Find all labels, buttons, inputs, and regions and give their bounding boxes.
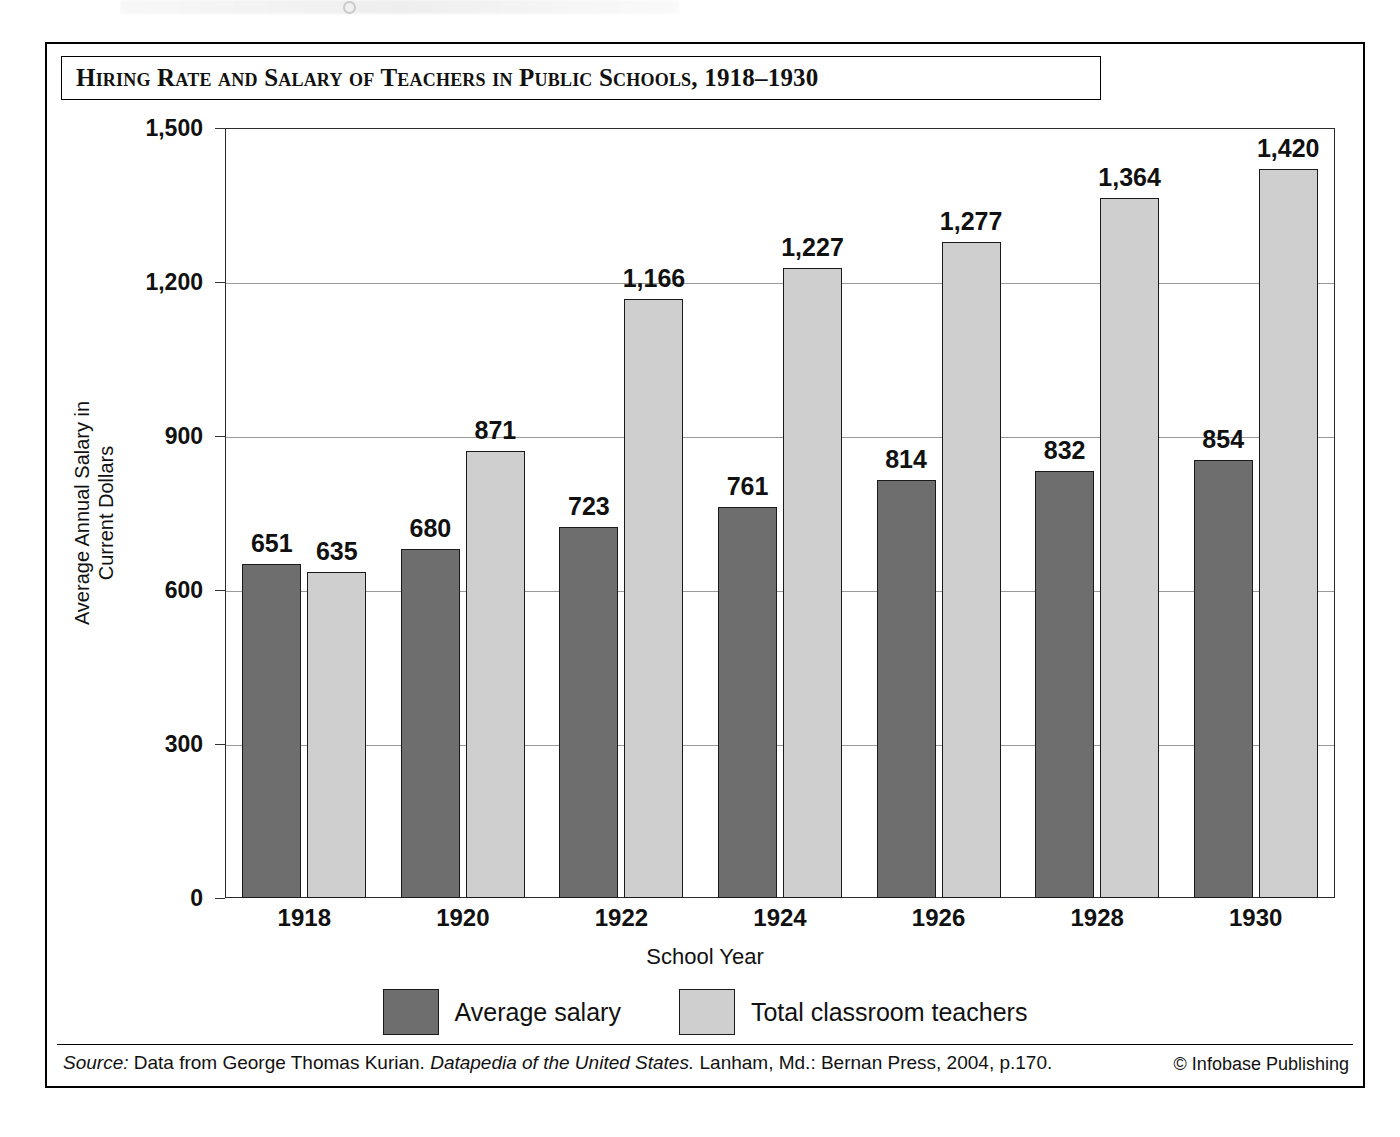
legend-swatch (383, 989, 439, 1035)
source-label: Source: (63, 1052, 128, 1073)
y-axis-tick-label: 0 (190, 885, 203, 912)
bar-total-classroom-teachers-1924 (783, 268, 842, 898)
title-box: Hiring Rate and Salary of Teachers in Pu… (61, 56, 1101, 100)
source-text-a: Data from George Thomas Kurian. (128, 1052, 430, 1073)
bar-value-label: 854 (1202, 425, 1244, 454)
legend-label: Average salary (455, 998, 621, 1027)
scan-artifact-dot (343, 1, 356, 14)
x-axis-labels: 1918192019221924192619281930 (225, 904, 1335, 938)
bar-value-label: 761 (727, 472, 769, 501)
bar-average-salary-1922 (559, 527, 618, 898)
x-axis-tick-label-1924: 1924 (753, 904, 806, 932)
y-axis-tick-mark (215, 128, 225, 129)
bar-value-label: 1,420 (1257, 134, 1320, 163)
chart-legend: Average salaryTotal classroom teachers (47, 989, 1363, 1035)
bar-value-label: 1,364 (1098, 163, 1161, 192)
bar-value-label: 1,227 (781, 233, 844, 262)
bar-total-classroom-teachers-1926 (942, 242, 1001, 898)
legend-swatch (679, 989, 735, 1035)
y-axis-tick-label: 600 (165, 577, 203, 604)
bar-average-salary-1926 (877, 480, 936, 898)
y-axis-tick-mark (215, 590, 225, 591)
legend-item-average-salary: Average salary (383, 989, 621, 1035)
y-axis-tick-label: 900 (165, 423, 203, 450)
bar-average-salary-1918 (242, 564, 301, 898)
bar-average-salary-1924 (718, 507, 777, 898)
bar-average-salary-1930 (1194, 460, 1253, 898)
bar-average-salary-1928 (1035, 471, 1094, 898)
x-axis-tick-label-1920: 1920 (436, 904, 489, 932)
legend-label: Total classroom teachers (751, 998, 1028, 1027)
y-axis-tick-mark (215, 436, 225, 437)
y-axis-labels: 03006009001,2001,500 (47, 128, 217, 898)
scan-artifact (120, 0, 680, 14)
source-text-b: Lanham, Md.: Bernan Press, 2004, p.170. (694, 1052, 1052, 1073)
page-title: Hiring Rate and Salary of Teachers in Pu… (76, 64, 819, 92)
x-axis-tick-label-1918: 1918 (278, 904, 331, 932)
bar-value-label: 680 (409, 514, 451, 543)
y-axis-tick-label: 300 (165, 731, 203, 758)
source-note: Source: Data from George Thomas Kurian. … (63, 1052, 1052, 1074)
bar-total-classroom-teachers-1928 (1100, 198, 1159, 898)
x-axis-tick-label-1926: 1926 (912, 904, 965, 932)
bar-value-label: 635 (316, 537, 358, 566)
y-axis-tick-label: 1,500 (145, 115, 203, 142)
figure-frame: Hiring Rate and Salary of Teachers in Pu… (45, 42, 1365, 1088)
bar-value-label: 651 (251, 529, 293, 558)
bar-value-label: 832 (1044, 436, 1086, 465)
legend-item-total-classroom-teachers: Total classroom teachers (679, 989, 1028, 1035)
bar-total-classroom-teachers-1918 (307, 572, 366, 898)
y-axis-tick-mark (215, 898, 225, 899)
bar-value-label: 723 (568, 492, 610, 521)
bar-average-salary-1920 (401, 549, 460, 898)
bar-total-classroom-teachers-1922 (624, 299, 683, 898)
source-publication-title: Datapedia of the United States. (430, 1052, 694, 1073)
bar-value-label: 814 (885, 445, 927, 474)
x-axis-tick-label-1928: 1928 (1070, 904, 1123, 932)
y-axis-tick-label: 1,200 (145, 269, 203, 296)
bar-value-label: 1,277 (940, 207, 1003, 236)
x-axis-tick-label-1922: 1922 (595, 904, 648, 932)
bar-value-label: 871 (474, 416, 516, 445)
bar-total-classroom-teachers-1930 (1259, 169, 1318, 898)
source-divider (57, 1044, 1353, 1045)
bar-total-classroom-teachers-1920 (466, 451, 525, 898)
x-axis-tick-label-1930: 1930 (1229, 904, 1282, 932)
y-axis-tick-mark (215, 282, 225, 283)
copyright-credit: © Infobase Publishing (1174, 1054, 1349, 1075)
bar-value-label: 1,166 (623, 264, 686, 293)
x-axis-title: School Year (47, 944, 1363, 970)
y-axis-tick-mark (215, 744, 225, 745)
bar-series-container: 6516356808717231,1667611,2278141,2778321… (225, 128, 1335, 898)
